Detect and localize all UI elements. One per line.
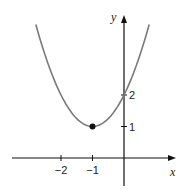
x-axis [12, 155, 176, 161]
tick-labels: −2−112 [55, 89, 135, 176]
x-axis-arrow-icon [168, 155, 176, 161]
y-tick-label: 1 [129, 121, 135, 133]
y-axis-label: y [110, 10, 117, 24]
parabola-graph: −2−112 x y [0, 0, 186, 195]
parabola-curve [36, 24, 149, 126]
y-tick-label: 2 [129, 89, 135, 101]
x-tick-label: −2 [55, 164, 68, 176]
vertex-point [90, 124, 96, 130]
x-tick-label: −1 [86, 164, 99, 176]
y-axis-arrow-icon [121, 15, 127, 23]
x-axis-label: x [169, 165, 176, 179]
